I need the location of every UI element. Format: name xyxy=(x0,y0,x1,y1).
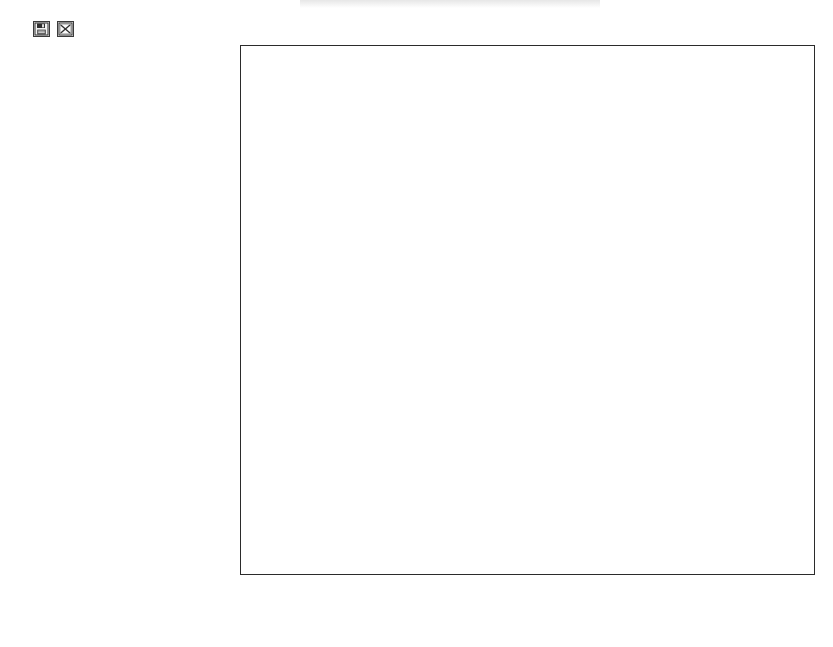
value-axis xyxy=(240,575,815,615)
plot-area xyxy=(240,45,815,575)
bar-chart xyxy=(0,0,833,647)
category-axis xyxy=(0,45,233,575)
